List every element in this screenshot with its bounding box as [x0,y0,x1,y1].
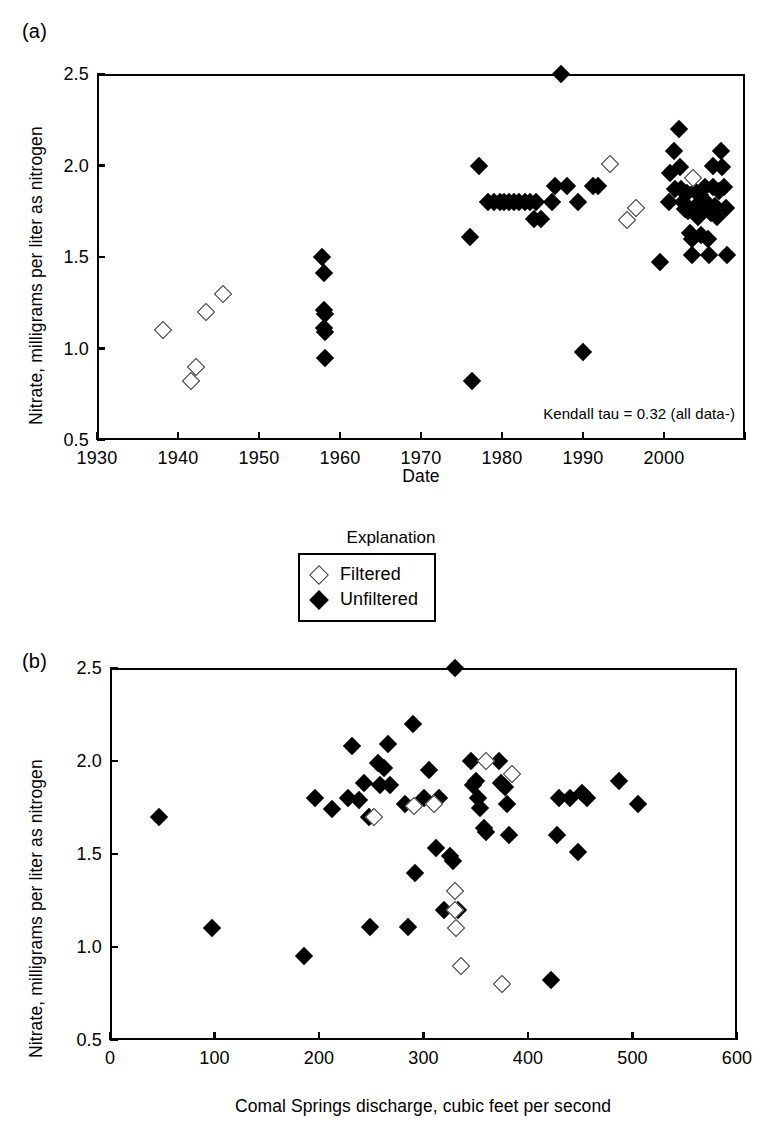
x-tick [177,432,180,440]
panel-b: (b) Nitrate, milligrams per liter as nit… [0,630,781,1144]
x-tick [422,1032,425,1040]
panel-a-tag: (a) [22,20,47,43]
y-tick-label: 1.5 [39,247,89,268]
legend-item-filtered[interactable]: Filtered [312,562,418,587]
x-tick-label: 500 [617,1048,648,1069]
y-tick-label: 2.5 [39,64,89,85]
x-tick-label: 1940 [158,448,199,469]
legend-item-label: Filtered [340,564,401,585]
x-tick-label: 1990 [563,448,604,469]
open-diamond-icon [309,565,329,585]
x-tick-label: 200 [304,1048,335,1069]
y-tick-label: 0.5 [52,1030,102,1051]
legend-box: Filtered Unfiltered [298,553,436,622]
x-tick [318,1032,321,1040]
x-tick [501,432,504,440]
x-tick-label: 0 [105,1048,115,1069]
y-tick [97,73,105,76]
figure-root: (a) Nitrate, milligrams per liter as nit… [0,0,781,1144]
x-tick [736,1032,739,1040]
panel-b-xlabel: Comal Springs discharge, cubic feet per … [235,1096,611,1117]
x-tick [258,432,261,440]
filled-diamond-icon [309,590,329,610]
y-tick [97,347,105,350]
x-tick [582,432,585,440]
y-tick [97,256,105,259]
y-tick [110,946,118,949]
panel-b-plot-frame [110,668,737,1040]
legend-title: Explanation [347,528,436,548]
x-tick [527,1032,530,1040]
y-tick [97,164,105,167]
x-tick [339,432,342,440]
x-tick-label: 1930 [77,448,118,469]
y-tick-label: 2.0 [39,155,89,176]
x-tick-label: 100 [199,1048,230,1069]
x-tick-label: 300 [408,1048,439,1069]
legend-item-unfiltered[interactable]: Unfiltered [312,587,418,612]
x-tick [213,1032,216,1040]
x-tick [420,432,423,440]
panel-a-annotation: Kendall tau = 0.32 (all data-) [543,405,735,422]
legend-item-label: Unfiltered [340,589,418,610]
y-tick-label: 2.5 [52,658,102,679]
y-tick-label: 1.0 [39,338,89,359]
x-tick-label: 2000 [644,448,685,469]
x-tick-label: 600 [722,1048,753,1069]
x-tick [744,432,747,440]
y-tick-label: 2.0 [52,751,102,772]
y-tick [110,853,118,856]
x-tick-label: 1950 [239,448,280,469]
x-tick-label: 400 [513,1048,544,1069]
panel-b-tag: (b) [22,650,47,673]
x-tick [631,1032,634,1040]
x-tick-label: 1980 [482,448,523,469]
y-tick [110,667,118,670]
x-tick-label: 1960 [320,448,361,469]
x-tick [109,1032,112,1040]
y-tick-label: 1.0 [52,937,102,958]
panel-a-xlabel: Date [402,466,439,487]
y-tick [110,760,118,763]
y-tick-label: 1.5 [52,844,102,865]
panel-a: (a) Nitrate, milligrams per liter as nit… [0,0,781,490]
x-tick [663,432,666,440]
x-tick [96,432,99,440]
panel-b-ylabel: Nitrate, milligrams per liter as nitroge… [26,759,47,1058]
